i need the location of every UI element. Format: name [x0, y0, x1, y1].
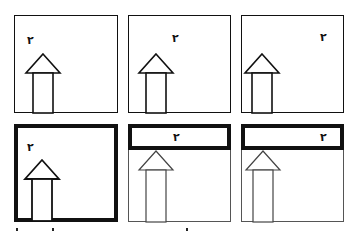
panel-3: ٢ [241, 15, 344, 113]
house-arrow-icon [244, 53, 280, 113]
house-arrow-icon [138, 150, 174, 222]
panel-5: ٢ [128, 124, 231, 222]
panel-4: ٢ [14, 124, 118, 222]
panel-6-label: ٢ [320, 132, 327, 143]
house-arrow-icon [138, 53, 174, 113]
panel-2-label: ٢ [172, 33, 179, 44]
house-arrow-icon [24, 159, 60, 221]
cropped-marks [0, 226, 354, 231]
panel-1-label: ٢ [27, 35, 34, 46]
panel-5-label: ٢ [173, 132, 180, 143]
panel-6: ٢ [241, 124, 344, 222]
house-arrow-icon [25, 53, 61, 113]
panel-4-label: ٢ [27, 142, 34, 153]
panel-3-label: ٢ [320, 32, 327, 43]
house-arrow-icon [245, 150, 281, 222]
panel-1: ٢ [14, 15, 118, 113]
panel-6-top-band [241, 124, 344, 150]
panel-2: ٢ [128, 15, 231, 113]
